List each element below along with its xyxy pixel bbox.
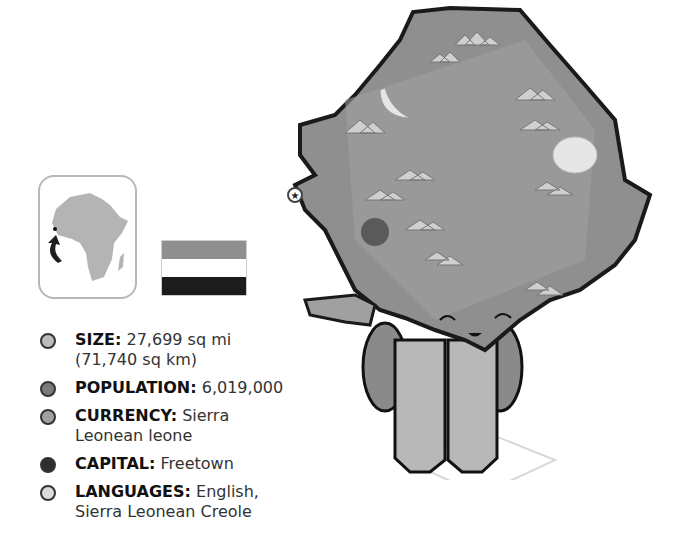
africa-map-icon [40, 177, 139, 301]
fact-value: Freetown [161, 454, 234, 473]
left-leg [395, 340, 445, 472]
fact-key: SIZE: [75, 330, 121, 349]
sierra-leone-flag [161, 240, 247, 296]
sierra-leone-character-map: ★ [285, 0, 660, 480]
fact-size: SIZE: 27,699 sq mi (71,740 sq km) [38, 330, 298, 370]
fact-languages: LANGUAGES: English, Sierra Leonean Creol… [38, 482, 298, 522]
languages-bullet-icon [40, 485, 56, 501]
africa-locator-map [38, 175, 137, 299]
currency-bullet-icon [40, 409, 56, 425]
fact-value-secondary: Sierra Leonean Creole [75, 502, 252, 521]
flag-stripe-bottom [162, 277, 246, 295]
fact-value: 6,019,000 [202, 378, 283, 397]
fact-capital: CAPITAL: Freetown [38, 454, 298, 474]
fact-value: 27,699 sq mi [127, 330, 232, 349]
size-bullet-icon [40, 333, 56, 349]
facts-list: SIZE: 27,699 sq mi (71,740 sq km) POPULA… [38, 330, 298, 530]
cacao-icon [361, 218, 389, 246]
fact-value: English, [196, 482, 259, 501]
flag-stripe-middle [162, 259, 246, 277]
population-bullet-icon [40, 381, 56, 397]
star-icon: ★ [291, 190, 300, 201]
locator-arrow-icon [48, 235, 62, 263]
capital-bullet-icon [40, 457, 56, 473]
fact-key: LANGUAGES: [75, 482, 191, 501]
fact-key: CURRENCY: [75, 406, 177, 425]
fact-key: CAPITAL: [75, 454, 155, 473]
flag-stripe-top [162, 241, 246, 259]
right-leg [448, 340, 497, 472]
fact-key: POPULATION: [75, 378, 197, 397]
island [305, 295, 375, 325]
fact-population: POPULATION: 6,019,000 [38, 378, 298, 398]
fact-value-secondary: (71,740 sq km) [75, 350, 197, 369]
diamond-icon [553, 137, 597, 173]
fact-currency: CURRENCY: Sierra Leonean leone [38, 406, 298, 446]
